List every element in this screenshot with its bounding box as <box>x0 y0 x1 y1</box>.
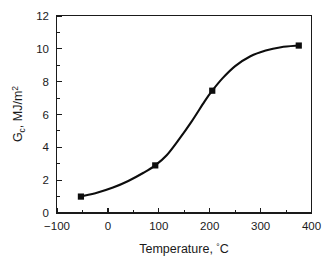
chart-figure: −1000100200300400 024681012 Temperature,… <box>0 0 330 268</box>
x-axis-tick-labels: −1000100200300400 <box>44 220 321 232</box>
data-series-curve <box>81 46 299 197</box>
y-axis-major-ticks <box>57 16 62 213</box>
y-tick-label: 10 <box>36 43 49 55</box>
x-tick-label: −100 <box>44 220 70 232</box>
y-tick-label: 8 <box>43 76 49 88</box>
x-tick-label: 100 <box>149 220 168 232</box>
y-tick-label: 0 <box>43 207 49 219</box>
y-axis-tick-labels: 024681012 <box>36 10 49 219</box>
y-axis-title: Gc, MJ/m2 <box>10 86 27 142</box>
data-series-markers <box>78 42 302 199</box>
x-axis-title: Temperature, °C <box>139 242 229 257</box>
data-point-marker <box>152 162 158 168</box>
data-point-marker <box>296 42 302 48</box>
plot-frame <box>57 16 312 214</box>
x-tick-label: 300 <box>251 220 270 232</box>
data-point-marker <box>78 193 84 199</box>
y-tick-label: 12 <box>36 10 49 22</box>
y-tick-label: 4 <box>43 141 50 153</box>
chart-canvas: −1000100200300400 024681012 Temperature,… <box>0 0 330 268</box>
x-tick-label: 0 <box>105 220 111 232</box>
x-tick-label: 200 <box>200 220 219 232</box>
x-tick-label: 400 <box>302 220 321 232</box>
y-tick-label: 2 <box>43 174 49 186</box>
data-point-marker <box>209 88 215 94</box>
y-tick-label: 6 <box>43 109 49 121</box>
